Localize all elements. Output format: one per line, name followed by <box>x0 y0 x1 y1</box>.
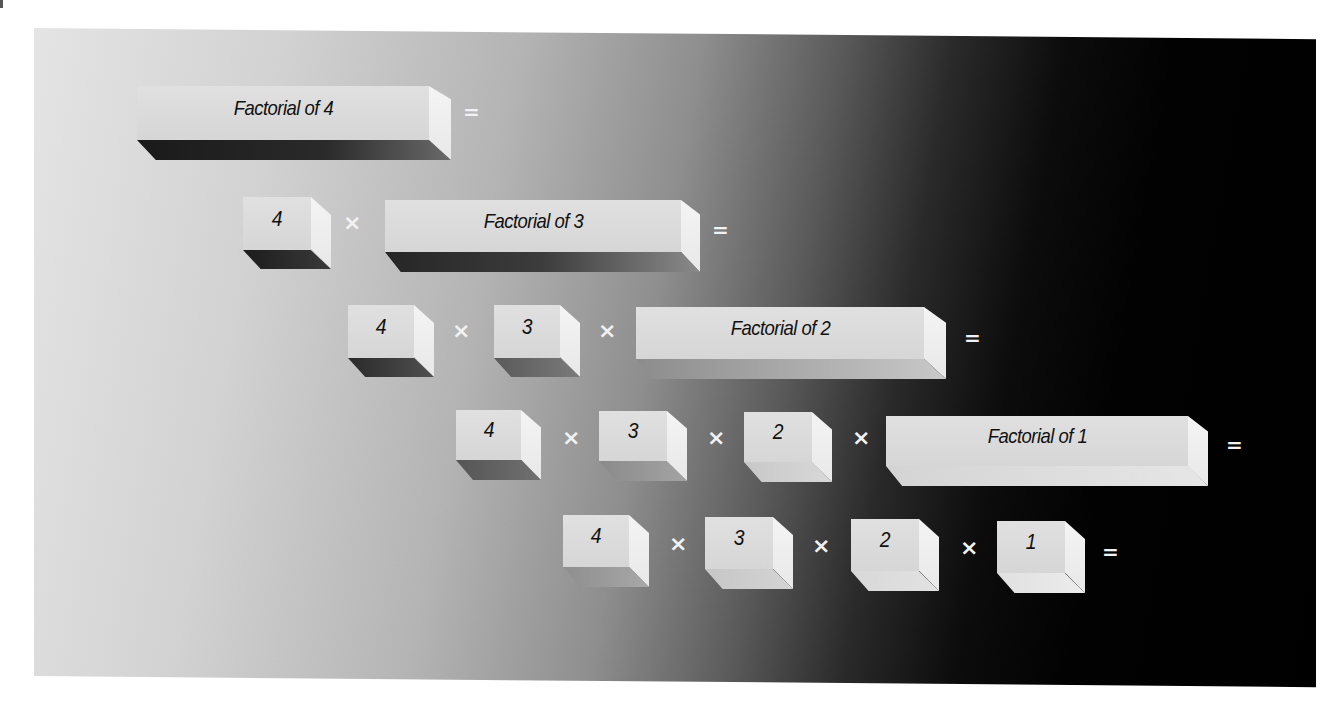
block-label: 3 <box>734 525 744 551</box>
block-number-3: 3 <box>494 305 560 358</box>
corner-mark <box>0 0 3 8</box>
block-label: 4 <box>483 417 493 443</box>
block-number-3: 3 <box>705 517 773 569</box>
block-label: 4 <box>591 523 601 549</box>
block-label: 3 <box>522 314 532 340</box>
multiply-sign: × <box>852 427 870 449</box>
equals-sign: = <box>1102 542 1119 562</box>
block-number-4: 4 <box>243 197 311 250</box>
block-label: 2 <box>880 527 890 553</box>
block-label: Factorial of 1 <box>987 424 1086 448</box>
block-number-4: 4 <box>563 515 629 567</box>
block-factorial-3: Factorial of 3 <box>385 200 681 252</box>
multiply-sign: × <box>812 535 830 557</box>
block-label: 4 <box>272 206 282 232</box>
block-label: 1 <box>1026 529 1036 555</box>
multiply-sign: × <box>960 537 978 559</box>
equals-sign: = <box>964 328 981 348</box>
multiply-sign: × <box>343 212 361 234</box>
block-number-2: 2 <box>851 519 919 571</box>
block-label: 4 <box>376 314 386 340</box>
block-factorial-1: Factorial of 1 <box>886 416 1188 466</box>
block-number-1: 1 <box>997 521 1065 573</box>
block-number-3: 3 <box>599 411 667 461</box>
block-number-4: 4 <box>348 305 414 358</box>
equals-sign: = <box>712 220 729 240</box>
block-label: 3 <box>628 418 638 444</box>
multiply-sign: × <box>707 427 725 449</box>
block-label: 2 <box>773 419 783 445</box>
multiply-sign: × <box>562 427 580 449</box>
multiply-sign: × <box>452 320 470 342</box>
equals-sign: = <box>463 102 480 122</box>
block-label: Factorial of 4 <box>233 96 332 120</box>
block-number-2: 2 <box>744 412 812 462</box>
multiply-sign: × <box>669 533 687 555</box>
block-label: Factorial of 2 <box>730 316 829 340</box>
multiply-sign: × <box>598 320 616 342</box>
block-factorial-4: Factorial of 4 <box>137 86 429 140</box>
block-factorial-2: Factorial of 2 <box>636 307 924 359</box>
equals-sign: = <box>1226 435 1243 455</box>
block-label: Factorial of 3 <box>483 209 582 233</box>
block-number-4: 4 <box>456 410 521 460</box>
